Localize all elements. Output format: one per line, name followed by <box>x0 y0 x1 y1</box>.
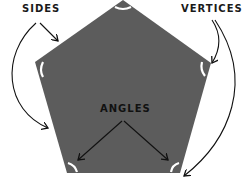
vertices-label: VERTICES <box>181 3 243 14</box>
pentagon-shape <box>35 0 211 173</box>
sides-label: SIDES <box>22 3 60 14</box>
angles-label: ANGLES <box>100 103 151 114</box>
pentagon-diagram <box>0 0 245 186</box>
